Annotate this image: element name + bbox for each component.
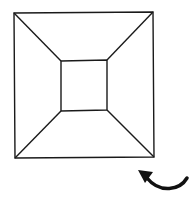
connector-top-right xyxy=(107,12,153,60)
frustum-diagram xyxy=(0,0,195,207)
connector-bottom-right xyxy=(107,110,154,157)
curved-arrow-counterclockwise-icon xyxy=(138,170,187,189)
connector-bottom-left xyxy=(15,111,61,158)
inner-square xyxy=(61,60,107,111)
connector-top-left xyxy=(14,13,61,61)
diagram-canvas xyxy=(0,0,195,207)
